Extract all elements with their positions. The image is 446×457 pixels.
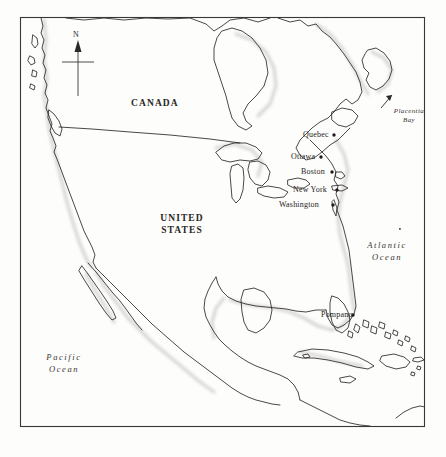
city-dot-washington <box>331 203 334 206</box>
city-dot-pompano <box>351 313 354 316</box>
city-dot-boston <box>330 170 333 173</box>
paper-background <box>0 0 446 457</box>
city-dot-quebec <box>332 133 335 136</box>
city-dot-new-york <box>335 188 338 191</box>
paper-speck <box>399 228 401 230</box>
city-dot-ottawa <box>319 155 322 158</box>
map-drawing <box>0 0 446 457</box>
map-figure: N CANADA UNITED STATES Atlantic Ocean Pa… <box>0 0 446 457</box>
